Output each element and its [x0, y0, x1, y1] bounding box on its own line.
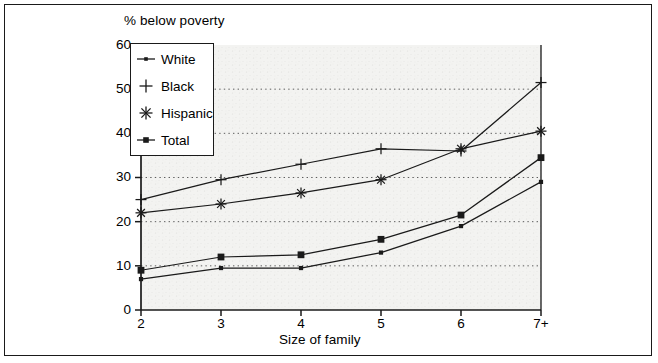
data-point-total-4 — [298, 251, 305, 258]
y-tick-label-10: 10 — [105, 258, 131, 273]
legend-entry-white: White — [136, 48, 196, 70]
data-point-hispanic-2 — [136, 207, 147, 218]
filled-square-marker-icon — [136, 132, 156, 148]
legend-entry-hispanic: Hispanic — [136, 102, 213, 124]
asterisk-marker-icon — [136, 105, 156, 121]
data-point-white-6 — [459, 224, 463, 228]
x-axis-title: Size of family — [279, 332, 361, 347]
data-point-white-7+ — [539, 180, 543, 184]
y-tick-label-20: 20 — [105, 214, 131, 229]
data-point-total-2 — [138, 267, 145, 274]
plus-marker-icon — [136, 78, 156, 94]
data-point-white-4 — [299, 266, 303, 270]
y-tick-label-50: 50 — [105, 81, 131, 96]
data-point-hispanic-6 — [456, 143, 467, 154]
y-tick-label-0: 0 — [105, 302, 131, 317]
y-tick-label-40: 40 — [105, 125, 131, 140]
legend-entry-total: Total — [136, 129, 190, 151]
legend-entry-black: Black — [136, 75, 194, 97]
data-point-total-7+ — [538, 154, 545, 161]
x-tick-label-7plus: 7+ — [526, 316, 556, 331]
x-tick-label-2: 2 — [126, 316, 156, 331]
data-point-total-6 — [458, 212, 465, 219]
data-point-white-3 — [219, 266, 223, 270]
legend-label-white: White — [161, 52, 196, 67]
data-point-total-3 — [218, 254, 225, 261]
small-dot-marker-icon — [136, 51, 156, 67]
x-tick-label-5: 5 — [366, 316, 396, 331]
data-point-hispanic-3 — [216, 199, 227, 210]
legend-label-total: Total — [161, 133, 190, 148]
y-tick-label-30: 30 — [105, 169, 131, 184]
y-axis-title: % below poverty — [124, 13, 225, 28]
x-tick-label-6: 6 — [446, 316, 476, 331]
data-point-hispanic-7+ — [536, 126, 547, 137]
data-point-total-5 — [378, 236, 385, 243]
y-tick-label-60: 60 — [105, 37, 131, 52]
x-tick-label-4: 4 — [286, 316, 316, 331]
data-point-white-2 — [139, 277, 143, 281]
data-point-white-5 — [379, 250, 383, 254]
data-point-hispanic-5 — [376, 174, 387, 185]
data-point-hispanic-4 — [296, 187, 307, 198]
legend-label-black: Black — [161, 79, 194, 94]
legend-label-hispanic: Hispanic — [161, 106, 213, 121]
chart-legend: White Black Hispanic Total — [130, 43, 214, 156]
x-tick-marks — [141, 310, 541, 316]
chart-plot-area — [0, 0, 658, 363]
x-tick-label-3: 3 — [206, 316, 236, 331]
